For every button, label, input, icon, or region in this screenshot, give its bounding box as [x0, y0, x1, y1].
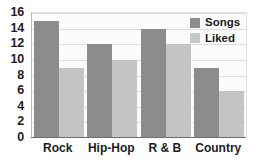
songs-swatch-icon [190, 18, 200, 28]
legend-label-liked: Liked [205, 33, 235, 45]
bar-group [34, 13, 84, 138]
bar-songs-hip-hop [87, 44, 112, 138]
legend-item-songs: Songs [190, 17, 240, 29]
bar-liked-hip-hop [112, 60, 137, 138]
bar-chart: 1614121086420 RockHip-HopR & BCountry So… [0, 0, 255, 167]
y-axis-tick-label: 0 [17, 131, 24, 144]
legend-item-liked: Liked [190, 33, 240, 45]
chart-legend: Songs Liked [190, 17, 240, 44]
x-axis-line [31, 137, 246, 138]
x-axis-tick-label: Hip-Hop [88, 142, 135, 155]
liked-swatch-icon [190, 33, 200, 43]
y-axis-tick-label: 12 [10, 37, 24, 50]
y-axis-tick-label: 14 [10, 21, 24, 34]
legend-label-songs: Songs [205, 17, 240, 29]
bar-liked-rock [59, 68, 84, 138]
y-axis-tick-label: 6 [17, 84, 24, 97]
x-axis-tick-label: R & B [148, 142, 181, 155]
bar-songs-country [194, 68, 219, 138]
y-axis-tick-label: 8 [17, 68, 24, 81]
bar-group [141, 13, 191, 138]
bar-songs-rock [34, 21, 59, 138]
y-axis-tick-label: 10 [10, 53, 24, 66]
bar-group [87, 13, 137, 138]
y-axis-tick-label: 2 [17, 115, 24, 128]
bar-liked-r-b [166, 44, 191, 138]
y-axis-tick-label: 4 [17, 100, 24, 113]
x-axis: RockHip-HopR & BCountry [31, 142, 245, 162]
x-axis-tick-label: Country [195, 142, 241, 155]
y-axis: 1614121086420 [0, 0, 27, 167]
x-axis-tick-label: Rock [43, 142, 72, 155]
y-axis-tick-label: 16 [10, 6, 24, 19]
bar-songs-r-b [141, 29, 166, 138]
bar-liked-country [219, 91, 244, 138]
